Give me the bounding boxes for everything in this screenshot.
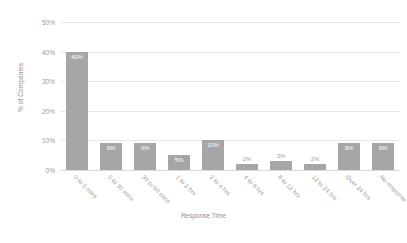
y-axis-tick-label: 10% xyxy=(42,137,55,144)
bar-slot: 2% xyxy=(230,22,264,170)
y-axis-tick-label: 40% xyxy=(42,48,55,55)
bar-value-label: 40% xyxy=(71,54,83,60)
bar[interactable]: 9% xyxy=(372,143,394,170)
bar-slot: 10% xyxy=(196,22,230,170)
bar-value-label: 5% xyxy=(175,157,184,163)
y-axis-tick-label: 20% xyxy=(42,107,55,114)
bar[interactable]: 2% xyxy=(304,164,326,170)
x-axis-tick-label-text: No response xyxy=(379,174,407,203)
y-axis-tick-label: 50% xyxy=(42,19,55,26)
bar-slot: 9% xyxy=(94,22,128,170)
bar-value-label: 9% xyxy=(141,145,150,151)
bar-slot: 9% xyxy=(128,22,162,170)
gridline: 0% xyxy=(60,170,400,171)
x-axis-tick-label-text: 1 to 2 hrs xyxy=(175,174,198,197)
bar-value-label: 9% xyxy=(345,145,354,151)
x-axis-title-text: Response Time xyxy=(181,212,226,219)
plot-area: 0%10%20%30%40%50% 40%9%9%5%10%2%3%2%9%9% xyxy=(60,22,400,170)
x-axis-tick-label-text: 2 to 4 hrs xyxy=(209,174,232,197)
bar[interactable]: 40% xyxy=(66,52,88,170)
bar-slot: 3% xyxy=(264,22,298,170)
x-axis-title: Response Time xyxy=(0,212,407,219)
x-axis-tick-label-text: 4 to 8 hrs xyxy=(243,174,266,197)
bar-value-label: 9% xyxy=(107,145,116,151)
bar[interactable]: 9% xyxy=(338,143,360,170)
y-axis-tick-label: 0% xyxy=(46,167,55,174)
bar-slot: 2% xyxy=(298,22,332,170)
bar[interactable]: 10% xyxy=(202,140,224,170)
bar-slot: 9% xyxy=(332,22,366,170)
bar-slot: 5% xyxy=(162,22,196,170)
bar-value-label: 3% xyxy=(277,153,286,159)
bar-value-label: 10% xyxy=(207,142,219,148)
bar-value-label: 9% xyxy=(379,145,388,151)
bar-chart: % of Companies 0%10%20%30%40%50% 40%9%9%… xyxy=(0,0,407,243)
bar-slot: 9% xyxy=(366,22,400,170)
bar[interactable]: 9% xyxy=(134,143,156,170)
y-axis-tick-label: 30% xyxy=(42,78,55,85)
bar-value-label: 2% xyxy=(311,156,320,162)
bar[interactable]: 5% xyxy=(168,155,190,170)
bars-container: 40%9%9%5%10%2%3%2%9%9% xyxy=(60,22,400,170)
bar-slot: 40% xyxy=(60,22,94,170)
bar[interactable]: 9% xyxy=(100,143,122,170)
bar[interactable]: 2% xyxy=(236,164,258,170)
bar-value-label: 2% xyxy=(243,156,252,162)
bar[interactable]: 3% xyxy=(270,161,292,170)
y-axis-title-text: % of Companies xyxy=(18,63,25,112)
y-axis-title: % of Companies xyxy=(14,0,28,175)
